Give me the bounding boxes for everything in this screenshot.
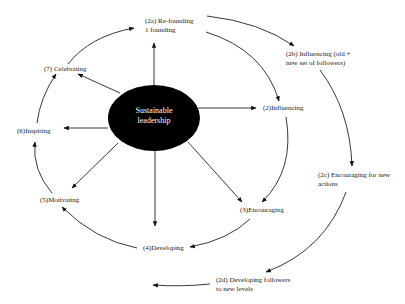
- node-2c: (2c) Encouraging for new actions: [318, 171, 390, 189]
- arrow-to-celebrating: [78, 74, 120, 93]
- node-2b-line1: (2b) Influencing (old +: [286, 50, 350, 59]
- node-4-developing: (4)Developing: [143, 244, 184, 253]
- node-6-inspiring: (6)Inspiring: [17, 127, 50, 136]
- arc-developing-to-motivating: [62, 207, 137, 248]
- sustainable-leadership-diagram: Sustainable leadership (2a) Re-founding …: [0, 0, 405, 304]
- arc-2b-to-2c: [320, 70, 352, 166]
- center-label: Sustainable leadership: [114, 106, 194, 126]
- node-3-encouraging: (3)Encouraging: [240, 206, 284, 215]
- node-2b: (2b) Influencing (old + new set of follo…: [286, 50, 350, 68]
- arc-2d-onward: [153, 284, 210, 286]
- arrow-to-encouraging: [188, 142, 242, 202]
- node-2c-line2: actions: [318, 180, 390, 189]
- node-7-celebrating: (7) Celebrating: [44, 65, 87, 74]
- arc-inspiring-to-celebrating: [37, 74, 56, 123]
- arc-celebrating-to-refounding: [68, 28, 134, 64]
- arc-2c-to-2d: [266, 192, 346, 272]
- center-label-line1: Sustainable: [114, 106, 194, 116]
- arrow-to-motivating: [72, 143, 118, 188]
- node-2a-line1: (2a) Re-founding: [145, 17, 193, 26]
- arc-influencing-to-encouraging: [262, 117, 288, 202]
- node-2b-line2: new set of followers): [286, 59, 350, 68]
- center-label-line2: leadership: [114, 116, 194, 126]
- arc-refounding-to-influencing: [206, 32, 279, 101]
- node-2a-line2: 1 founding: [145, 26, 193, 35]
- node-2d: (2d) Developing followers to new levels: [216, 276, 290, 294]
- node-2a: (2a) Re-founding 1 founding: [145, 17, 193, 35]
- node-2d-line1: (2d) Developing followers: [216, 276, 290, 285]
- node-2d-line2: to new levels: [216, 285, 290, 294]
- node-5-motivating: (5)Motivating: [40, 196, 79, 205]
- diagram-connectors: [0, 0, 405, 304]
- arc-motivating-to-inspiring: [35, 142, 52, 193]
- arc-refounding-to-2b: [207, 16, 294, 46]
- node-2c-line1: (2c) Encouraging for new: [318, 171, 390, 180]
- arc-encouraging-to-developing: [190, 219, 250, 247]
- node-2-influencing: (2)Influencing: [263, 104, 303, 113]
